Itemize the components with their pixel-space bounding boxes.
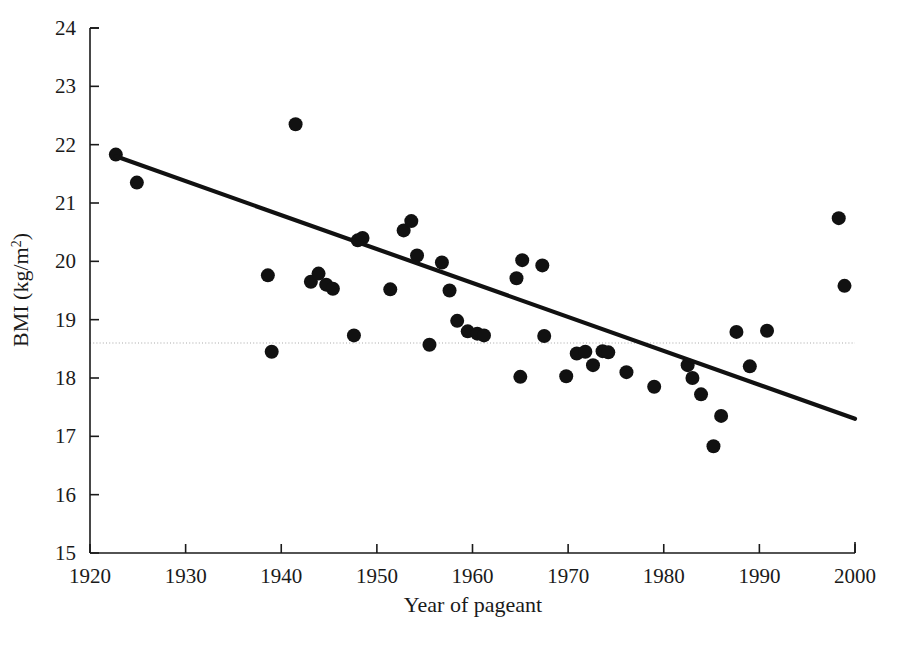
x-tick-label: 1960	[452, 564, 494, 588]
y-tick-label: 21	[55, 191, 76, 215]
x-tick-label: 1980	[643, 564, 685, 588]
data-point	[619, 365, 633, 379]
data-point	[714, 409, 728, 423]
data-point	[586, 358, 600, 372]
data-point	[515, 253, 529, 267]
data-point	[832, 211, 846, 225]
y-tick-label: 22	[55, 133, 76, 157]
axes-group	[90, 28, 855, 553]
x-tick-label: 1990	[738, 564, 780, 588]
y-axis-title: BMI (kg/m2)	[8, 233, 33, 347]
y-tick-label: 16	[55, 483, 76, 507]
y-tick-label: 24	[55, 16, 77, 40]
scatter-plot-figure: 1920193019401950196019701980199020001516…	[0, 0, 897, 648]
data-point	[578, 345, 592, 359]
y-tick-label: 17	[55, 424, 76, 448]
data-point	[743, 359, 757, 373]
data-point	[559, 369, 573, 383]
y-tick-label: 15	[55, 541, 76, 565]
y-tick-label: 23	[55, 74, 76, 98]
data-point	[450, 314, 464, 328]
plot-canvas: 1920193019401950196019701980199020001516…	[0, 0, 897, 648]
x-tick-label: 1920	[69, 564, 111, 588]
y-tick-label: 20	[55, 249, 76, 273]
data-point	[265, 345, 279, 359]
trend-line	[116, 156, 855, 419]
data-point	[694, 387, 708, 401]
y-axis-title-main: BMI (kg/m	[8, 247, 33, 347]
data-point	[261, 268, 275, 282]
data-point	[837, 279, 851, 293]
data-point	[601, 345, 615, 359]
y-axis-title-superscript: 2	[9, 240, 24, 247]
trend-line-group	[116, 156, 855, 419]
data-point	[347, 328, 361, 342]
y-tick-label: 18	[55, 366, 76, 390]
data-point	[422, 338, 436, 352]
svg-text:BMI (kg/m2): BMI (kg/m2)	[8, 233, 33, 347]
data-point	[647, 380, 661, 394]
data-point	[435, 256, 449, 270]
data-point	[383, 282, 397, 296]
data-point	[685, 371, 699, 385]
data-point	[537, 329, 551, 343]
data-point	[513, 370, 527, 384]
data-point	[760, 324, 774, 338]
x-tick-label: 1940	[260, 564, 302, 588]
data-point	[509, 271, 523, 285]
tick-labels-group: 1920193019401950196019701980199020001516…	[55, 16, 876, 588]
x-tick-label: 1970	[547, 564, 589, 588]
data-point	[729, 325, 743, 339]
y-tick-label: 19	[55, 308, 76, 332]
data-point	[535, 258, 549, 272]
y-axis-title-close: )	[8, 233, 33, 240]
x-tick-label: 1930	[165, 564, 207, 588]
x-axis-title: Year of pageant	[404, 592, 542, 617]
data-point	[404, 214, 418, 228]
x-tick-label: 2000	[834, 564, 876, 588]
data-point	[477, 328, 491, 342]
data-point	[289, 117, 303, 131]
data-point	[706, 439, 720, 453]
data-point	[443, 284, 457, 298]
data-point	[326, 282, 340, 296]
data-point	[130, 176, 144, 190]
x-tick-label: 1950	[356, 564, 398, 588]
